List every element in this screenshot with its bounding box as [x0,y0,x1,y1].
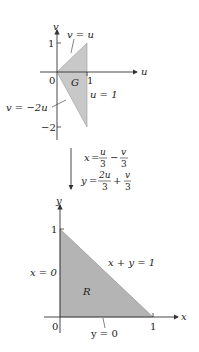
label-x-plus-y-eq-1: x + y = 1 [108,257,155,268]
y-eq-lhs: y [80,175,87,186]
diagram-canvas: v u 1 0 1 −2 G v = u u = 1 v = −2u x = u… [0,0,199,352]
leader-v-eq-u [71,39,74,53]
y-frac2-den: 3 [125,182,131,192]
v-axis-label: v [53,21,59,32]
bottom-plot: y x 1 0 1 R x + y = 1 x = 0 y = 0 [30,195,187,339]
label-v-eq-neg2u: v = −2u [6,102,48,113]
tick-label-origin: 0 [49,75,55,86]
tick-label-v1: 1 [48,38,54,49]
x-op: − [110,152,118,163]
top-plot: v u 1 0 1 −2 G v = u u = 1 v = −2u [6,21,147,140]
y-frac2-num: v [125,170,130,180]
y-axis-label: y [55,195,62,206]
y-op: + [113,175,121,186]
x-frac2-num: v [121,147,126,157]
y-frac1-num: 2u [98,170,111,180]
label-v-eq-u: v = u [67,29,94,40]
label-y-eq-0: y = 0 [90,328,118,339]
leader-v-eq-neg2u [52,100,66,107]
u-axis-label: u [141,66,147,77]
tick-label-vneg2: −2 [41,122,56,133]
x-frac1-num: u [100,147,106,157]
x-eq-sign: = [91,152,99,163]
leader-y-eq-0 [103,318,105,328]
tick-label-x1: 1 [150,321,156,332]
y-frac1-den: 3 [102,182,108,192]
x-eq-lhs: x [84,152,90,163]
y-eq-sign: = [89,175,97,186]
region-r [60,229,153,317]
label-x-eq-0: x = 0 [30,267,57,278]
region-label-r: R [82,286,91,297]
transformation: x = u 3 − v 3 y = 2u 3 + v 3 [71,147,131,192]
tick-label-origin-xy: 0 [52,321,58,332]
x-frac2-den: 3 [121,159,127,169]
tick-label-y1: 1 [51,224,57,235]
tick-label-u1: 1 [87,75,93,86]
region-label-g: G [71,77,79,88]
label-u-eq-1: u = 1 [90,89,118,100]
x-frac1-den: 3 [100,159,106,169]
x-axis-label: x [181,311,187,322]
